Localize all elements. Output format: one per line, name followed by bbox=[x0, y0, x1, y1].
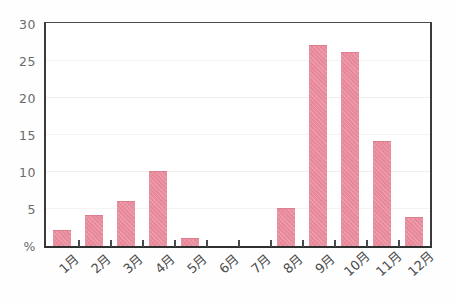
bar-8月 bbox=[277, 208, 295, 246]
x-tick-mark-9 bbox=[334, 240, 336, 247]
bar-4月 bbox=[149, 171, 167, 246]
x-tick-label-3月: 3月 bbox=[118, 249, 147, 277]
x-axis: 1月2月3月4月5月6月7月8月9月10月11月12月 bbox=[44, 252, 432, 305]
x-tick-label-6月: 6月 bbox=[214, 249, 243, 277]
x-tick-label-4月: 4月 bbox=[150, 249, 179, 277]
bar-10月 bbox=[341, 52, 359, 246]
x-tick-mark-5 bbox=[206, 240, 208, 247]
x-tick-mark-8 bbox=[302, 240, 304, 247]
bar-chart-figure: %51015202530 1月2月3月4月5月6月7月8月9月10月11月12月 bbox=[0, 0, 458, 305]
x-tick-label-8月: 8月 bbox=[278, 249, 307, 277]
x-tick-mark-7 bbox=[270, 240, 272, 247]
y-tick-label-20: 20 bbox=[19, 90, 36, 105]
bar-11月 bbox=[373, 141, 391, 246]
x-tick-label-9月: 9月 bbox=[310, 249, 339, 277]
bar-12月 bbox=[405, 217, 423, 246]
plot-inner bbox=[46, 23, 430, 246]
x-tick-mark-10 bbox=[366, 240, 368, 247]
bar-5月 bbox=[181, 238, 199, 246]
bar-1月 bbox=[53, 230, 71, 246]
y-tick-label-30: 30 bbox=[19, 16, 36, 31]
x-tick-mark-3 bbox=[142, 240, 144, 247]
y-tick-label-10: 10 bbox=[19, 164, 36, 179]
x-tick-mark-2 bbox=[110, 240, 112, 247]
bar-2月 bbox=[85, 215, 103, 246]
x-tick-label-1月: 1月 bbox=[54, 249, 83, 277]
x-tick-mark-4 bbox=[174, 240, 176, 247]
x-tick-label-12月: 12月 bbox=[403, 246, 438, 280]
x-tick-mark-6 bbox=[238, 240, 240, 247]
x-tick-label-11月: 11月 bbox=[371, 246, 406, 280]
y-tick-label-%: % bbox=[24, 239, 36, 254]
y-tick-label-15: 15 bbox=[19, 127, 36, 142]
y-tick-label-25: 25 bbox=[19, 53, 36, 68]
bar-series bbox=[46, 23, 430, 246]
x-tick-mark-11 bbox=[398, 240, 400, 247]
x-tick-label-5月: 5月 bbox=[182, 249, 211, 277]
x-tick-label-2月: 2月 bbox=[86, 249, 115, 277]
y-tick-label-5: 5 bbox=[28, 201, 36, 216]
x-tick-mark-1 bbox=[78, 240, 80, 247]
plot-area bbox=[44, 22, 432, 248]
y-axis: %51015202530 bbox=[0, 0, 44, 305]
x-tick-label-7月: 7月 bbox=[246, 249, 275, 277]
bar-9月 bbox=[309, 45, 327, 246]
bar-3月 bbox=[117, 201, 135, 247]
x-tick-label-10月: 10月 bbox=[339, 246, 374, 280]
